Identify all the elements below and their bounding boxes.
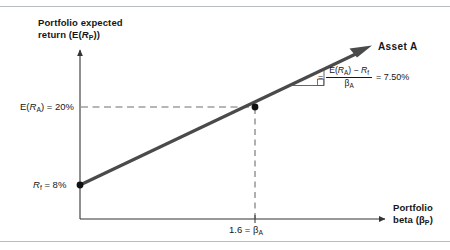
slope-result: = 7.50% — [376, 72, 409, 82]
y-axis-title: Portfolio expected return (E(RP)) — [38, 17, 123, 40]
slope-equals-sign: = — [318, 72, 323, 82]
y-axis-title-line1: Portfolio expected — [38, 17, 123, 28]
x-axis-title-line2: beta (βP) — [393, 214, 433, 225]
slope-equation: = E(RA) − Rf βA = 7.50% — [318, 66, 409, 89]
data-point-riskfree — [77, 182, 84, 189]
slope-numerator: E(RA) − Rf — [326, 66, 372, 77]
asset-a-label: Asset A — [378, 41, 418, 53]
y-tick-label-asset-return: E(RA) = 20% — [20, 101, 74, 113]
slope-denominator: βA — [342, 78, 357, 89]
y-tick-label-risk-free-rate: Rf = 8% — [33, 179, 66, 191]
x-axis-title-line1: Portfolio — [393, 202, 433, 213]
x-axis-title: Portfolio beta (βP) — [393, 202, 433, 225]
data-point-asset-a — [252, 104, 259, 111]
x-tick-label-beta: 1.6 = βA — [229, 224, 263, 236]
slope-fraction: E(RA) − Rf βA — [326, 66, 372, 89]
y-axis-title-line2: return (E(RP)) — [38, 29, 100, 40]
figure-container: Portfolio expected return (E(RP)) Portfo… — [0, 0, 450, 250]
